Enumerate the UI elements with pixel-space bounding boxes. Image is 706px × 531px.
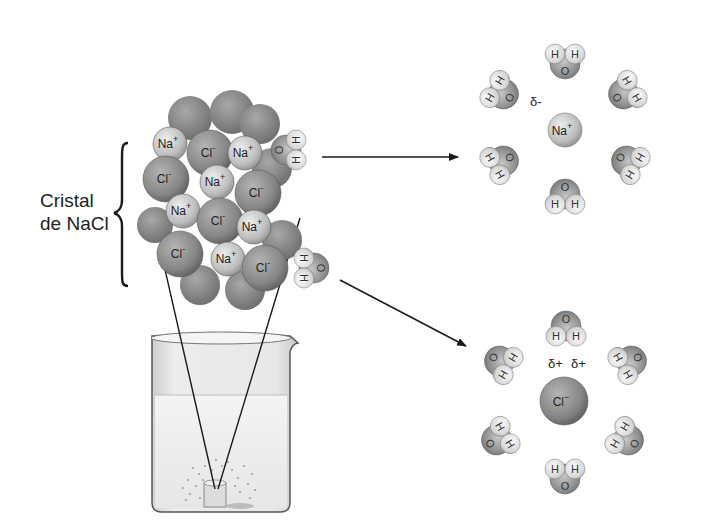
na-ion: Na+: [237, 210, 271, 244]
crystal-brace: [114, 143, 128, 286]
partial-charge-label-2: δ+: [571, 356, 586, 371]
na-hydration-shell: Na+ δ-: [476, 44, 654, 214]
cl-ion: Cl-: [242, 245, 288, 291]
water-molecule: [546, 311, 586, 346]
crystal-label-line2: de NaCl: [40, 212, 109, 235]
water-molecule: [601, 413, 651, 465]
na-ion: Na+: [153, 127, 187, 161]
water-molecule: [604, 136, 654, 188]
crystal-label: Cristal de NaCl: [40, 189, 109, 235]
beaker: [151, 332, 298, 512]
cl-ion: Cl-: [235, 170, 281, 216]
water-molecule: [476, 136, 526, 188]
water-molecule: [545, 179, 585, 214]
water-molecule: [601, 67, 651, 119]
water-molecule: [545, 459, 585, 494]
water-molecule: [545, 44, 585, 79]
partial-charge-label-1: δ+: [548, 356, 563, 371]
crystal-label-line1: Cristal: [40, 189, 109, 212]
diagram-canvas: H H O: [0, 0, 706, 531]
partial-charge-label: δ-: [530, 94, 542, 109]
nacl-dissolution-diagram: H H O: [0, 0, 706, 531]
cl-hydration-shell: Cl− δ+ δ+: [474, 311, 655, 494]
water-molecule: [474, 413, 524, 465]
cl-ion: Cl-: [157, 231, 203, 277]
water-molecule: [604, 336, 654, 388]
na-ion: Na+: [211, 242, 245, 276]
cl-ion: Cl-: [197, 198, 243, 244]
crystal-water-2: [294, 248, 329, 288]
na-ion: Na+: [228, 136, 262, 170]
na-ion: Na+: [200, 165, 234, 199]
arrow-to-cl-hydration: [340, 280, 466, 346]
na-ion: Na+: [166, 194, 200, 228]
water-molecule: [476, 67, 526, 119]
water-molecule: [477, 336, 527, 388]
